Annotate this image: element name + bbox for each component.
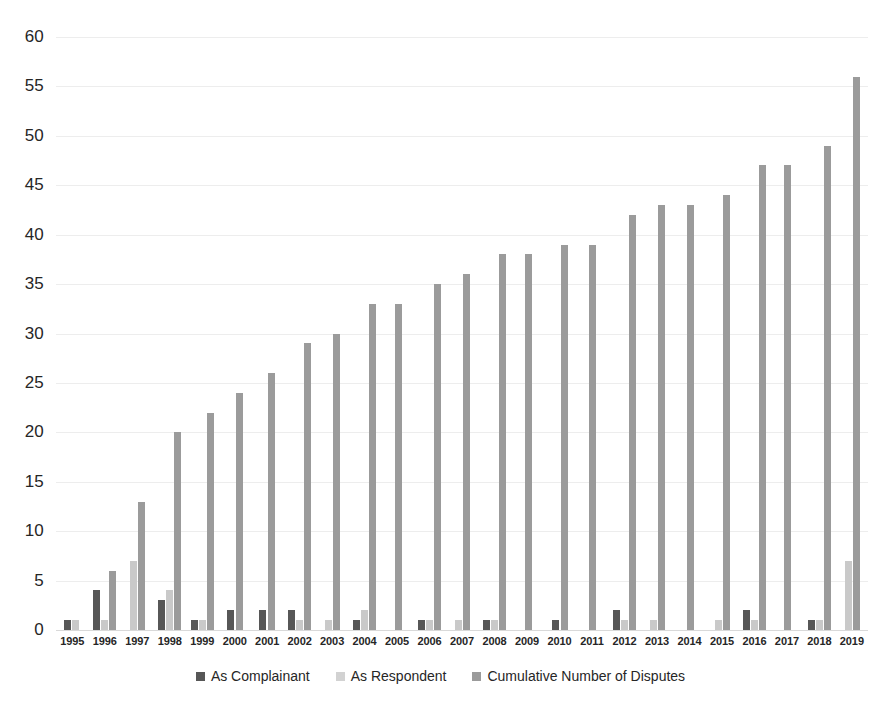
legend-swatch-icon	[336, 672, 345, 681]
bar-complainant	[64, 620, 71, 630]
bar-respondent	[621, 620, 628, 630]
x-axis-tick-label: 1997	[121, 634, 153, 654]
bar-cumulative	[207, 413, 214, 630]
chart-legend: As ComplainantAs RespondentCumulative Nu…	[0, 668, 881, 684]
bar-group	[576, 37, 608, 630]
bar-respondent	[325, 620, 332, 630]
bar-complainant	[93, 590, 100, 630]
bar-group	[478, 37, 510, 630]
bar-cumulative	[525, 254, 532, 630]
bar-group	[283, 37, 315, 630]
y-axis-tick-label: 0	[0, 621, 44, 638]
bar-group	[543, 37, 575, 630]
x-axis-tick-label: 2016	[738, 634, 770, 654]
bar-group	[803, 37, 835, 630]
bar-cumulative	[759, 165, 766, 630]
x-axis-tick-label: 2009	[511, 634, 543, 654]
bar-cumulative	[687, 205, 694, 630]
bar-respondent	[166, 590, 173, 630]
bar-cumulative	[463, 274, 470, 630]
legend-item[interactable]: As Respondent	[336, 668, 447, 684]
y-axis-tick-label: 15	[0, 473, 44, 490]
bar-group	[316, 37, 348, 630]
bar-cumulative	[138, 502, 145, 630]
y-axis-tick-label: 45	[0, 176, 44, 193]
bar-group	[186, 37, 218, 630]
legend-swatch-icon	[196, 672, 205, 681]
bar-cumulative	[236, 393, 243, 630]
bar-cumulative	[853, 77, 860, 630]
bar-cumulative	[434, 284, 441, 630]
bar-group	[153, 37, 185, 630]
legend-swatch-icon	[472, 672, 481, 681]
bar-respondent	[455, 620, 462, 630]
x-axis-tick-label: 2019	[836, 634, 868, 654]
legend-item[interactable]: Cumulative Number of Disputes	[472, 668, 685, 684]
bar-complainant	[353, 620, 360, 630]
bar-cumulative	[268, 373, 275, 630]
bar-cumulative	[629, 215, 636, 630]
bar-respondent	[361, 610, 368, 630]
x-axis-tick-label: 2007	[446, 634, 478, 654]
bar-group	[771, 37, 803, 630]
y-axis-tick-label: 5	[0, 572, 44, 589]
legend-item-label: As Complainant	[211, 668, 310, 684]
x-axis: 1995199619971998199920002001200220032004…	[56, 634, 868, 654]
y-axis-tick-label: 10	[0, 522, 44, 539]
bar-respondent	[751, 620, 758, 630]
bar-complainant	[483, 620, 490, 630]
bar-complainant	[227, 610, 234, 630]
bar-complainant	[418, 620, 425, 630]
bar-complainant	[613, 610, 620, 630]
bar-group	[56, 37, 88, 630]
bar-respondent	[199, 620, 206, 630]
bar-groups	[56, 37, 868, 630]
bar-complainant	[743, 610, 750, 630]
bar-respondent	[101, 620, 108, 630]
x-axis-tick-label: 2012	[608, 634, 640, 654]
x-axis-tick-label: 2017	[771, 634, 803, 654]
bar-respondent	[130, 561, 137, 630]
y-axis-tick-label: 20	[0, 423, 44, 440]
x-axis-tick-label: 2005	[381, 634, 413, 654]
y-axis-tick-label: 40	[0, 226, 44, 243]
bar-cumulative	[304, 343, 311, 630]
x-axis-tick-label: 2000	[218, 634, 250, 654]
x-axis-tick-label: 2018	[803, 634, 835, 654]
x-axis-tick-label: 2008	[478, 634, 510, 654]
bar-respondent	[650, 620, 657, 630]
legend-item[interactable]: As Complainant	[196, 668, 310, 684]
legend-item-label: As Respondent	[351, 668, 447, 684]
bar-complainant	[552, 620, 559, 630]
bar-group	[641, 37, 673, 630]
bar-complainant	[808, 620, 815, 630]
bar-group	[738, 37, 770, 630]
x-axis-tick-label: 1995	[56, 634, 88, 654]
bar-respondent	[296, 620, 303, 630]
bar-respondent	[491, 620, 498, 630]
x-axis-tick-label: 2011	[576, 634, 608, 654]
y-axis-tick-label: 60	[0, 28, 44, 45]
bar-group	[88, 37, 120, 630]
x-axis-tick-label: 1996	[88, 634, 120, 654]
bar-cumulative	[784, 165, 791, 630]
bar-cumulative	[369, 304, 376, 630]
x-axis-tick-label: 2006	[413, 634, 445, 654]
bar-group	[511, 37, 543, 630]
bar-respondent	[426, 620, 433, 630]
bar-chart: 051015202530354045505560 199519961997199…	[0, 0, 881, 711]
bar-cumulative	[333, 334, 340, 631]
bar-cumulative	[174, 432, 181, 630]
y-axis-tick-label: 50	[0, 127, 44, 144]
bar-group	[251, 37, 283, 630]
y-axis-tick-label: 55	[0, 77, 44, 94]
bar-respondent	[715, 620, 722, 630]
x-axis-tick-label: 2004	[348, 634, 380, 654]
bar-group	[836, 37, 868, 630]
x-axis-tick-label: 2015	[706, 634, 738, 654]
bar-respondent	[845, 561, 852, 630]
y-axis-tick-label: 35	[0, 275, 44, 292]
bar-respondent	[816, 620, 823, 630]
bar-cumulative	[499, 254, 506, 630]
bar-group	[413, 37, 445, 630]
